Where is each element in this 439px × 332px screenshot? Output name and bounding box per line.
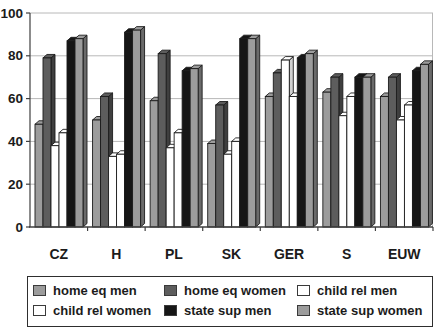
home-eq-women-bar-sk (216, 105, 224, 227)
x-axis-label-sk: SK (222, 246, 241, 262)
home-eq-women-bar-cz (43, 58, 51, 227)
state-sup-women-bar-pl-side (198, 65, 202, 227)
legend-item-child-rel-women: child rel women (33, 304, 164, 317)
y-axis-label-40: 40 (8, 134, 23, 149)
home-eq-men-bar-sk (208, 144, 216, 227)
x-axis-label-s: S (342, 246, 351, 262)
legend-swatch-state-sup-women (297, 305, 310, 316)
home-eq-men-bar-ger (265, 96, 273, 227)
child-rel-men-bar-sk (224, 154, 232, 227)
state-sup-women-bar-euw (420, 64, 428, 227)
legend-item-state-sup-men: state sup men (164, 304, 297, 317)
legend-item-child-rel-men: child rel men (297, 284, 432, 297)
state-sup-men-bar-h (125, 32, 133, 227)
state-sup-women-bar-pl (190, 69, 198, 227)
legend-label-home-eq-women: home eq women (184, 284, 286, 297)
state-sup-women-bar-s (363, 77, 371, 227)
state-sup-men-bar-euw (412, 71, 420, 227)
child-rel-men-bar-pl (166, 148, 174, 227)
state-sup-men-bar-sk (240, 39, 248, 227)
legend-item-home-eq-women: home eq women (164, 284, 297, 297)
chart-legend: home eq menhome eq womenchild rel menchi… (27, 276, 433, 327)
legend-item-home-eq-men: home eq men (33, 284, 164, 297)
x-axis-label-cz: CZ (49, 246, 68, 262)
state-sup-men-bar-s (355, 77, 363, 227)
home-eq-men-bar-euw (380, 96, 388, 227)
home-eq-men-bar-s (323, 92, 331, 227)
y-axis-label-0: 0 (15, 220, 23, 235)
home-eq-men-bar-pl (150, 101, 158, 227)
x-axis-label-euw: EUW (388, 246, 421, 262)
home-eq-women-bar-s (331, 77, 339, 227)
state-sup-women-bar-euw-side (428, 61, 432, 227)
x-axis-label-h: H (111, 246, 121, 262)
legend-swatch-child-rel-men (297, 285, 310, 296)
y-axis-label-80: 80 (8, 48, 23, 63)
legend-label-child-rel-women: child rel women (53, 304, 151, 317)
child-rel-women-bar-euw (404, 105, 412, 227)
state-sup-women-bar-s-side (371, 74, 375, 227)
child-rel-women-bar-cz (59, 133, 67, 227)
child-rel-women-bar-h (117, 154, 125, 227)
child-rel-women-bar-s (347, 96, 355, 227)
home-eq-women-bar-ger (273, 73, 281, 227)
home-eq-men-bar-cz (35, 124, 43, 227)
child-rel-men-bar-euw (396, 120, 404, 227)
state-sup-men-bar-cz (67, 41, 75, 227)
legend-label-state-sup-women: state sup women (317, 304, 422, 317)
state-sup-women-bar-sk-side (256, 35, 260, 227)
child-rel-women-bar-sk (232, 141, 240, 227)
y-axis-label-20: 20 (8, 177, 23, 192)
home-eq-men-bar-h (93, 120, 101, 227)
x-axis-label-pl: PL (165, 246, 183, 262)
state-sup-women-bar-cz-side (83, 35, 87, 227)
legend-swatch-home-eq-men (33, 285, 46, 296)
y-axis-label-100: 100 (0, 6, 23, 21)
legend-label-state-sup-men: state sup men (184, 304, 271, 317)
legend-swatch-home-eq-women (164, 285, 177, 296)
y-axis-label-60: 60 (8, 91, 23, 106)
state-sup-women-bar-sk (248, 39, 256, 227)
state-sup-women-bar-cz (75, 39, 83, 227)
child-rel-men-bar-ger (281, 60, 289, 227)
state-sup-women-bar-ger-side (313, 50, 317, 227)
child-rel-women-bar-ger (289, 96, 297, 227)
x-axis-label-ger: GER (274, 246, 304, 262)
home-eq-women-bar-h (101, 96, 109, 227)
home-eq-women-bar-euw (388, 77, 396, 227)
child-rel-men-bar-h (109, 156, 117, 227)
legend-label-child-rel-men: child rel men (317, 284, 397, 297)
plot-area: 020406080100CZHPLSKGERSEUW (0, 0, 439, 268)
legend-item-state-sup-women: state sup women (297, 304, 432, 317)
bar-chart: 020406080100CZHPLSKGERSEUW home eq menho… (0, 0, 439, 332)
legend-swatch-child-rel-women (33, 305, 46, 316)
state-sup-women-bar-h (133, 30, 141, 227)
legend-label-home-eq-men: home eq men (53, 284, 137, 297)
child-rel-men-bar-cz (51, 146, 59, 227)
state-sup-women-bar-ger (305, 54, 313, 227)
state-sup-women-bar-h-side (141, 27, 145, 227)
legend-swatch-state-sup-men (164, 305, 177, 316)
child-rel-women-bar-pl (174, 133, 182, 227)
child-rel-men-bar-s (339, 116, 347, 227)
home-eq-women-bar-pl (158, 54, 166, 227)
state-sup-men-bar-pl (182, 71, 190, 227)
state-sup-men-bar-ger (297, 58, 305, 227)
